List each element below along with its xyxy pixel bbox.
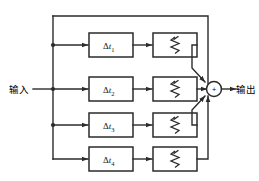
branch-4-output-wire <box>197 96 208 159</box>
junction-dot-1 <box>51 43 55 47</box>
junction-dot-2 <box>51 87 55 91</box>
output-label: 输出 <box>236 82 259 96</box>
diagram-canvas: Δt1 Δt2 Δt3 <box>0 0 259 181</box>
block-diagram-figure: Δt1 Δt2 Δt3 <box>0 0 259 181</box>
delay-block-1-subscript: 1 <box>111 46 114 53</box>
delay-block-2-subscript: 2 <box>111 90 114 97</box>
summing-junction-sign: + <box>212 85 217 94</box>
branch-row-3: Δt3 <box>53 96 205 137</box>
delay-block-3-subscript: 3 <box>111 126 114 133</box>
summing-junction[interactable]: + <box>207 82 222 97</box>
junction-dot-3 <box>51 123 55 127</box>
input-label: 输入 <box>4 82 34 96</box>
branch-row-2: Δt2 <box>53 77 207 101</box>
branch-row-1: Δt1 <box>53 33 205 82</box>
